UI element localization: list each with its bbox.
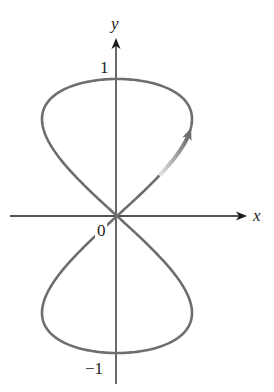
- axes: [10, 38, 247, 384]
- direction-arrow-shaft: [159, 136, 188, 175]
- origin-label: 0: [97, 221, 106, 240]
- x-axis-label: x: [252, 206, 261, 225]
- y-tick-label-1: 1: [100, 58, 109, 77]
- y-axis-label: y: [109, 14, 119, 33]
- parametric-curve-chart: 0 1 −1 y x: [0, 0, 274, 392]
- direction-arrow: [159, 128, 191, 176]
- y-tick-label-neg1: −1: [85, 359, 103, 378]
